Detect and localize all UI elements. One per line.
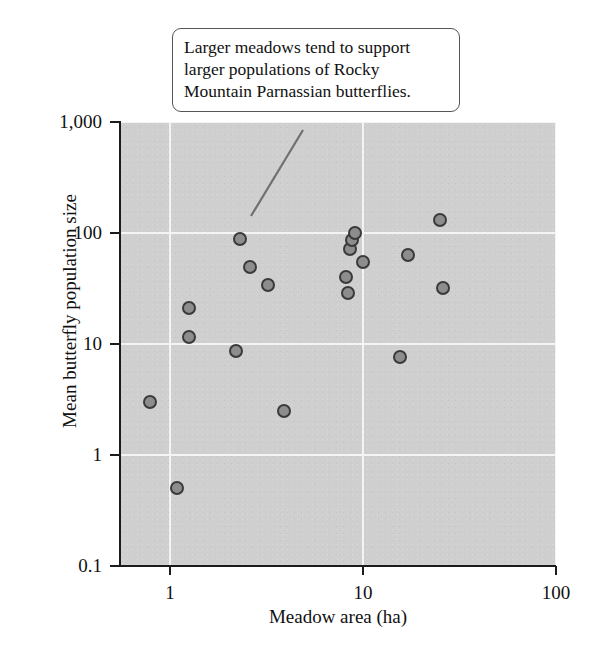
data-point — [339, 270, 353, 284]
y-axis-tick — [110, 343, 119, 345]
x-axis-tick-label: 100 — [516, 583, 596, 602]
figure-scatter-plot: 1,0001001010.1110100 Mean butterfly popu… — [0, 0, 597, 658]
data-point — [261, 278, 275, 292]
x-axis-label: Meadow area (ha) — [120, 606, 556, 628]
data-point — [143, 395, 157, 409]
annotation-callout: Larger meadows tend to support larger po… — [172, 28, 460, 112]
x-axis-tick — [555, 566, 557, 575]
x-axis-tick — [169, 566, 171, 575]
y-axis-tick-label: 1,000 — [2, 112, 102, 131]
gridline-horizontal — [120, 122, 556, 123]
data-point — [229, 344, 243, 358]
data-point — [433, 213, 447, 227]
data-point — [341, 286, 355, 300]
y-axis-tick-label: 10 — [2, 334, 102, 353]
x-axis-line — [119, 565, 556, 567]
y-axis-tick — [110, 565, 119, 567]
data-point — [170, 481, 184, 495]
data-point — [182, 301, 196, 315]
y-axis-tick — [110, 121, 119, 123]
x-axis-tick-label: 10 — [323, 583, 403, 602]
y-axis-tick — [110, 232, 119, 234]
annotation-text: Larger meadows tend to support larger po… — [184, 37, 411, 101]
y-axis-tick-label: 100 — [2, 223, 102, 242]
data-point — [348, 226, 362, 240]
data-point — [401, 248, 415, 262]
data-point — [182, 330, 196, 344]
data-point — [277, 404, 291, 418]
y-axis-tick-label: 0.1 — [2, 556, 102, 575]
x-axis-tick-label: 1 — [130, 583, 210, 602]
data-point — [233, 232, 247, 246]
y-axis-line — [119, 121, 121, 567]
gridline-horizontal — [120, 454, 556, 456]
y-axis-tick-label: 1 — [2, 445, 102, 464]
data-point — [356, 255, 370, 269]
gridline-horizontal — [120, 232, 556, 234]
data-point — [243, 260, 257, 274]
data-point — [436, 281, 450, 295]
plot-area — [120, 122, 556, 566]
x-axis-tick — [362, 566, 364, 575]
data-point — [393, 350, 407, 364]
y-axis-label: Mean butterfly population size — [59, 101, 81, 521]
y-axis-tick — [110, 454, 119, 456]
